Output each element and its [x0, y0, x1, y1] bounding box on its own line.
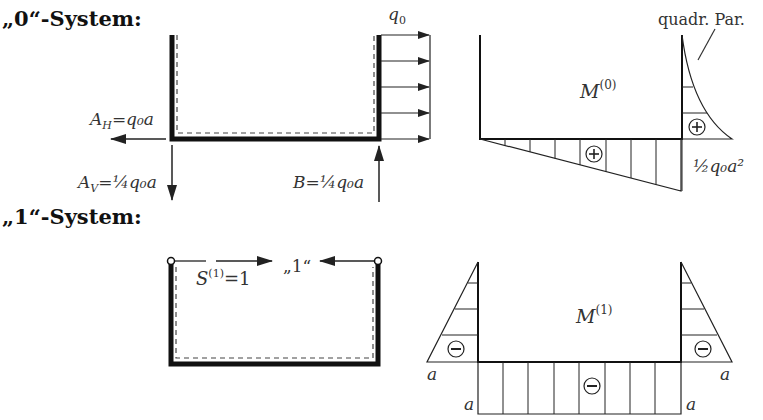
load-label-q0: q0 [388, 4, 406, 27]
sign-minus-left-icon [448, 341, 464, 357]
reaction-AH-label: AH=q₀a [88, 109, 154, 132]
moment-1-right-label: a [720, 364, 730, 384]
annotation-quadr-par: quadr. Par. [658, 10, 745, 29]
unit-load-label: „1“ [283, 256, 311, 276]
moment-1-left-label: a [427, 364, 437, 384]
reaction-B-label: B=¼q₀a [292, 172, 364, 192]
reaction-AV-label: AV=¼q₀a [76, 172, 157, 195]
moment-diagram-1 [427, 262, 732, 414]
frame-system-0 [172, 35, 379, 139]
distributed-load-arrows [381, 35, 430, 139]
moment-0-title: M(0) [579, 78, 616, 102]
sign-plus-bottom-icon [586, 146, 602, 162]
hinge-left-icon [168, 258, 175, 265]
force-S1-label: S(1)=1 [196, 267, 250, 289]
sign-plus-right-icon [689, 119, 705, 135]
moment-1-title: M(1) [575, 303, 612, 327]
moment-1-bottom-left-label: a [464, 394, 474, 414]
moment-0-value-label: ½q₀a² [693, 156, 744, 176]
sign-minus-right-icon [695, 341, 711, 357]
hinge-right-icon [375, 258, 382, 265]
annotation-leader-line [698, 29, 715, 60]
moment-1-bottom-right-label: a [686, 394, 696, 414]
sign-minus-bottom-icon [584, 378, 600, 394]
diagram-canvas: q0 AH=q₀a AV=¼q₀a B=¼q₀a quadr. Par. M( [0, 0, 763, 420]
